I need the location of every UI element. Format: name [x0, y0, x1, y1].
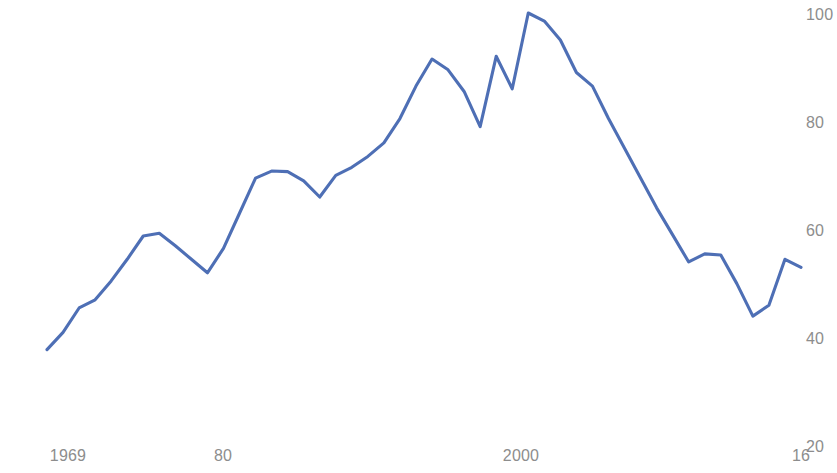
- x-axis-tick-1969: 1969: [47, 448, 89, 464]
- x-axis-tick-1980: 80: [208, 448, 238, 464]
- y-axis-tick-40: 40: [806, 331, 824, 347]
- y-axis-tick-100: 100: [806, 7, 833, 23]
- y-axis-tick-80: 80: [806, 115, 824, 131]
- y-axis-tick-60: 60: [806, 223, 824, 239]
- chart-plot-area: [0, 0, 837, 473]
- x-axis-tick-2000: 2000: [500, 448, 542, 464]
- line-chart: 100 80 60 40 20 1969 80 2000 16: [0, 0, 837, 473]
- data-series-line: [47, 13, 801, 350]
- x-axis-tick-2016: 16: [789, 448, 813, 464]
